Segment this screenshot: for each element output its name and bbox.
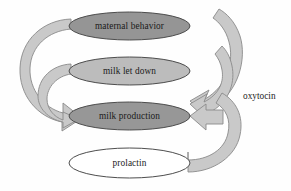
node-milk-production[interactable]: milk production [69, 102, 190, 130]
maternal-behavior-label: maternal behavior [95, 21, 165, 31]
diagram-canvas: maternal behavior milk let down milk pro… [0, 0, 291, 191]
node-maternal-behavior[interactable]: maternal behavior [69, 12, 190, 40]
node-prolactin[interactable]: prolactin [69, 148, 190, 178]
milk-let-down-label: milk let down [103, 66, 156, 76]
node-milk-let-down[interactable]: milk let down [69, 57, 190, 85]
lactation-feedback-diagram: maternal behavior milk let down milk pro… [0, 0, 291, 191]
milk-production-label: milk production [99, 111, 160, 121]
oxytocin-annotation-label: oxytocin [243, 91, 276, 101]
prolactin-label: prolactin [113, 158, 147, 168]
